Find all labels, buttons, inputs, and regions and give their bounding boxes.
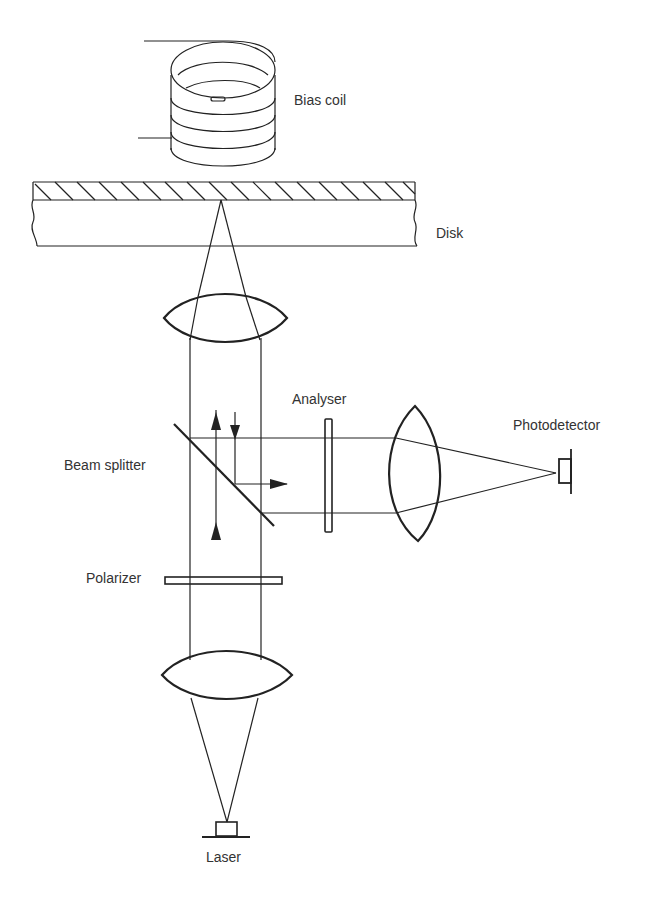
laser-beam [191, 698, 258, 822]
analyser: Analyser [292, 391, 347, 532]
laser-label: Laser [206, 849, 241, 865]
collimator-lens [162, 651, 292, 699]
collimated-beam [190, 338, 261, 660]
photodetector-label: Photodetector [513, 417, 601, 433]
polarizer-label: Polarizer [86, 570, 142, 586]
reflected-beam [190, 438, 556, 513]
beam-splitter-label: Beam splitter [64, 457, 146, 473]
disk-hatching [35, 182, 415, 200]
bias-coil: Bias coil [138, 41, 346, 166]
beam-splitter: Beam splitter [64, 410, 288, 540]
disk: Disk [32, 182, 464, 246]
detector-lens [389, 406, 440, 541]
polarizer: Polarizer [86, 570, 282, 586]
focus-beam [190, 200, 260, 340]
disk-label: Disk [436, 225, 464, 241]
laser: Laser [202, 822, 250, 865]
bias-coil-label: Bias coil [294, 92, 346, 108]
photodetector: Photodetector [513, 417, 601, 494]
analyser-label: Analyser [292, 391, 347, 407]
objective-lens [164, 294, 287, 342]
optical-diagram: Bias coil Disk [0, 0, 662, 909]
